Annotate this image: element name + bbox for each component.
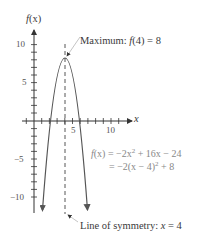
x-axis-label: x — [134, 114, 139, 125]
eq1-tail: + 16x − 24 — [135, 148, 181, 159]
curve-arrow-left — [40, 206, 45, 212]
equation-line-1: f(x) = −2x2 + 16x − 24 — [91, 148, 182, 159]
symmetry-rest: = 4 — [165, 220, 181, 231]
maximum-rest: (4) = 8 — [132, 35, 161, 46]
eq1-rest: (x) = −2x — [94, 148, 132, 159]
eq2-head: = −2(x − 4) — [109, 161, 155, 172]
symmetry-pointer — [68, 215, 78, 222]
tick-y-10: 10 — [16, 40, 25, 49]
maximum-pointer — [67, 37, 80, 56]
x-axis-label-text: x — [134, 113, 139, 124]
y-axis-label-rest: (x) — [29, 13, 41, 24]
tick-x-10: 10 — [106, 126, 115, 135]
tick-y-5: 5 — [22, 78, 27, 87]
maximum-prefix: Maximum: — [80, 35, 129, 46]
eq2-tail: + 8 — [159, 161, 175, 172]
y-axis-label: f(x) — [26, 14, 41, 25]
tick-y-neg10: −10 — [10, 193, 24, 202]
equation-line-2: = −2(x − 4)2 + 8 — [109, 161, 174, 172]
tick-x-5: 5 — [71, 126, 76, 135]
maximum-annotation: Maximum: f(4) = 8 — [80, 36, 161, 47]
symmetry-annotation: Line of symmetry: x = 4 — [80, 221, 182, 232]
symmetry-prefix: Line of symmetry: — [80, 220, 161, 231]
tick-y-neg5: −5 — [14, 155, 24, 164]
